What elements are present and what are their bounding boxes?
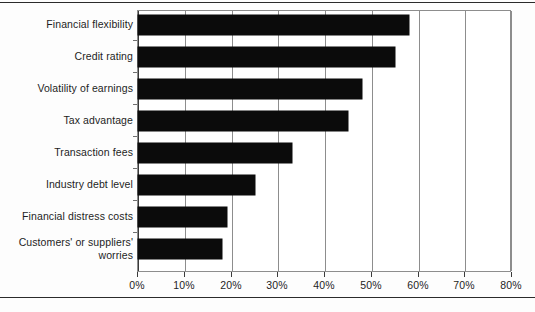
- bar: [138, 239, 222, 259]
- bar: [138, 111, 348, 131]
- y-tick-mark: [133, 200, 137, 201]
- chart-figure: Financial flexibilityCredit ratingVolati…: [0, 0, 535, 312]
- category-label: Financial flexibility: [3, 18, 133, 31]
- y-tick-mark: [133, 232, 137, 233]
- bar-series: [138, 11, 510, 271]
- x-tick-label: 50%: [349, 279, 393, 291]
- x-tick-label: 60%: [396, 279, 440, 291]
- x-tick-label: 20%: [209, 279, 253, 291]
- bar: [138, 47, 395, 67]
- bar: [138, 207, 227, 227]
- bar-row: [138, 47, 512, 67]
- bar: [138, 143, 292, 163]
- y-tick-mark: [133, 136, 137, 137]
- category-label: Transaction fees: [3, 146, 133, 159]
- bar-row: [138, 15, 512, 35]
- page-rule-top: [0, 2, 535, 3]
- y-tick-mark: [133, 72, 137, 73]
- bar: [138, 175, 255, 195]
- tick-mark: [418, 272, 419, 277]
- category-label: Industry debt level: [3, 178, 133, 191]
- x-tick-label: 40%: [302, 279, 346, 291]
- y-tick-mark: [133, 40, 137, 41]
- tick-mark: [137, 272, 138, 277]
- page-rule-bottom: [0, 297, 535, 298]
- y-tick-mark: [133, 168, 137, 169]
- bar-row: [138, 207, 512, 227]
- bar-row: [138, 143, 512, 163]
- category-axis-labels: Financial flexibilityCredit ratingVolati…: [0, 10, 133, 272]
- tick-mark: [324, 272, 325, 277]
- category-label: Customers' or suppliers' worries: [3, 236, 133, 261]
- bar-row: [138, 175, 512, 195]
- category-label: Financial distress costs: [3, 210, 133, 223]
- tick-mark: [464, 272, 465, 277]
- x-tick-label: 0%: [115, 279, 159, 291]
- y-tick-mark: [133, 104, 137, 105]
- x-tick-label: 80%: [489, 279, 533, 291]
- bar-row: [138, 239, 512, 259]
- category-label: Credit rating: [3, 50, 133, 63]
- tick-mark: [371, 272, 372, 277]
- bar-row: [138, 111, 512, 131]
- category-label: Volatility of earnings: [3, 82, 133, 95]
- bar-row: [138, 79, 512, 99]
- category-label: Tax advantage: [3, 114, 133, 127]
- tick-mark: [231, 272, 232, 277]
- tick-mark: [277, 272, 278, 277]
- x-tick-label: 30%: [255, 279, 299, 291]
- plot-area: [137, 10, 511, 272]
- tick-mark: [184, 272, 185, 277]
- x-tick-label: 70%: [442, 279, 486, 291]
- bar: [138, 15, 409, 35]
- bar: [138, 79, 362, 99]
- tick-mark: [511, 272, 512, 277]
- x-tick-label: 10%: [162, 279, 206, 291]
